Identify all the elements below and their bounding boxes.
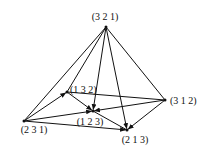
node-312 [164,99,167,102]
labels: (3 2 1)(1 3 2)(3 1 2)(2 3 1)(1 2 3)(2 1 … [21,11,197,146]
edge-321-312 [106,27,165,100]
node-231 [23,120,26,123]
node-label-132: (1 3 2) [70,84,97,96]
node-label-213: (2 1 3) [122,134,149,146]
edge-321-213 [106,27,127,129]
node-132 [66,91,69,94]
permutation-pyramid-diagram: (3 2 1)(1 3 2)(3 1 2)(2 3 1)(1 2 3)(2 1 … [0,0,217,156]
edge-312-123 [94,100,165,111]
node-321 [105,26,108,29]
node-123 [92,110,95,113]
edge-321-132 [67,27,106,92]
node-label-312: (3 1 2) [170,95,197,107]
node-label-123: (1 2 3) [77,116,104,128]
edges [24,27,165,130]
node-label-231: (2 3 1) [21,124,48,136]
node-label-321: (3 2 1) [92,11,119,23]
node-213 [126,129,129,132]
